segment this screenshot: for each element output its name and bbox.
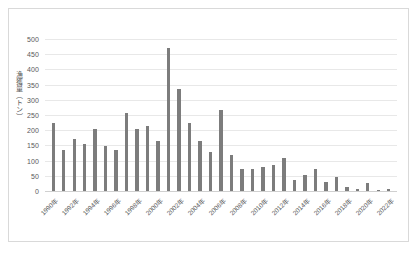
x-axis-tick-label: 1990年	[38, 195, 60, 217]
x-axis-slot: 2006年	[216, 193, 226, 239]
bar-slot	[142, 39, 152, 191]
y-axis-tick-label: 50	[31, 172, 39, 179]
bar-slot	[342, 39, 352, 191]
bar	[219, 110, 222, 191]
bar	[345, 187, 348, 191]
bar	[209, 152, 212, 191]
bar-slot	[279, 39, 289, 191]
x-axis-slot: 2020年	[363, 193, 373, 239]
bar	[272, 165, 275, 191]
gridline	[45, 191, 397, 192]
x-axis-slot: 1996年	[111, 193, 121, 239]
bar	[167, 48, 170, 191]
bar	[282, 158, 285, 191]
x-axis-slot: 1994年	[90, 193, 100, 239]
x-axis-slot: 2004年	[195, 193, 205, 239]
chart-frame: 漁獲量（トン） 500450400350300250200150100500 1…	[8, 8, 409, 242]
bar-slot	[226, 39, 236, 191]
bar-slot	[184, 39, 194, 191]
bar-slot	[90, 39, 100, 191]
bar-slot	[58, 39, 68, 191]
bar-slot	[331, 39, 341, 191]
bar-slot	[216, 39, 226, 191]
x-axis-slot: 2000年	[153, 193, 163, 239]
bar-series	[45, 39, 397, 191]
y-axis-tick-label: 0	[35, 188, 39, 195]
bar	[335, 177, 338, 191]
bar-slot	[352, 39, 362, 191]
bar	[135, 129, 138, 191]
bar	[240, 169, 243, 191]
bar	[156, 141, 159, 191]
bar	[93, 129, 96, 191]
bar-slot	[373, 39, 383, 191]
bar	[62, 150, 65, 191]
bar-slot	[153, 39, 163, 191]
y-axis-tick-label: 300	[27, 96, 39, 103]
bar-slot	[195, 39, 205, 191]
bar	[230, 155, 233, 191]
bar-slot	[121, 39, 131, 191]
bar-slot	[69, 39, 79, 191]
y-axis-tick-label: 400	[27, 66, 39, 73]
bar	[125, 113, 128, 191]
bar	[324, 182, 327, 191]
bar	[356, 189, 359, 191]
x-axis-slot: 2016年	[321, 193, 331, 239]
bar-slot	[163, 39, 173, 191]
bar-slot	[310, 39, 320, 191]
y-axis-tick-labels: 500450400350300250200150100500	[9, 39, 43, 191]
bar	[73, 139, 76, 191]
bar	[314, 169, 317, 191]
bar	[188, 123, 191, 191]
y-axis-tick-label: 250	[27, 112, 39, 119]
bar-slot	[384, 39, 394, 191]
bar	[146, 126, 149, 191]
x-axis-slot: 1992年	[69, 193, 79, 239]
plot-area	[45, 39, 397, 191]
x-axis-tick-labels: 1990年1991年1992年1993年1994年1995年1996年1997年…	[45, 193, 397, 239]
bar-slot	[205, 39, 215, 191]
y-axis-tick-label: 350	[27, 81, 39, 88]
y-axis-tick-label: 500	[27, 36, 39, 43]
bar-slot	[363, 39, 373, 191]
bar	[104, 146, 107, 191]
bar-slot	[100, 39, 110, 191]
bar-slot	[174, 39, 184, 191]
bar-slot	[300, 39, 310, 191]
x-axis-slot: 2018年	[342, 193, 352, 239]
bar-slot	[111, 39, 121, 191]
bar-slot	[48, 39, 58, 191]
bar	[303, 175, 306, 191]
bar-slot	[321, 39, 331, 191]
x-axis-slot: 2010年	[258, 193, 268, 239]
y-axis-tick-label: 450	[27, 51, 39, 58]
bar	[83, 144, 86, 191]
bar-slot	[237, 39, 247, 191]
bar-slot	[132, 39, 142, 191]
bar	[387, 189, 390, 191]
x-axis-slot: 2008年	[237, 193, 247, 239]
y-axis-tick-label: 200	[27, 127, 39, 134]
bar-slot	[247, 39, 257, 191]
bar	[377, 190, 380, 191]
bar	[293, 180, 296, 191]
y-axis-tick-label: 150	[27, 142, 39, 149]
bar	[366, 183, 369, 191]
bar-slot	[268, 39, 278, 191]
x-axis-slot: 2022年	[384, 193, 394, 239]
bar-slot	[289, 39, 299, 191]
x-axis-slot: 2012年	[279, 193, 289, 239]
bar	[261, 167, 264, 191]
x-axis-slot: 2014年	[300, 193, 310, 239]
bar-slot	[258, 39, 268, 191]
bar	[52, 123, 55, 191]
x-axis-slot: 2002年	[174, 193, 184, 239]
bar	[177, 89, 180, 191]
bar	[198, 141, 201, 191]
y-axis-tick-label: 100	[27, 157, 39, 164]
x-axis-slot: 1990年	[48, 193, 58, 239]
bar	[251, 169, 254, 191]
x-axis-slot: 1998年	[132, 193, 142, 239]
bar-slot	[79, 39, 89, 191]
